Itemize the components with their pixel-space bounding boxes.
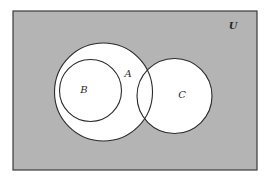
- set-c-label: C: [178, 89, 186, 100]
- set-b-label: B: [79, 84, 87, 95]
- universe-set-label: U: [229, 20, 239, 31]
- set-a-label: A: [123, 68, 131, 79]
- venn-diagram: U A B C: [0, 0, 270, 179]
- venn-diagram-svg: U A B C: [0, 0, 270, 179]
